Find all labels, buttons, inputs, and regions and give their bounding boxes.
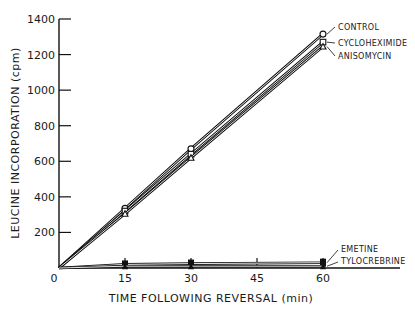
y-tick-label: 200: [34, 226, 55, 239]
x-tick-label: 60: [316, 272, 330, 285]
marker-circle: [320, 31, 326, 37]
legend: CONTROLCYCLOHEXIMIDEANISOMYCINEMETINETYL…: [327, 23, 407, 266]
x-axis-title: TIME FOLLOWING REVERSAL (min): [108, 292, 314, 305]
series-anisomycin: [59, 44, 326, 268]
legend-leader-line: [327, 27, 335, 34]
y-axis-title: LEUCINE INCORPORATION (cpm): [9, 47, 22, 239]
x-tick-label: 30: [184, 272, 198, 285]
legend-leader-line: [327, 250, 338, 263]
y-tick-label: 1400: [27, 13, 55, 26]
legend-label-control: CONTROL: [338, 23, 379, 32]
y-tick-label: 400: [34, 191, 55, 204]
legend-leader-line: [327, 262, 338, 266]
y-tick-label: 800: [34, 120, 55, 133]
legend-label-anisomycin: ANISOMYCIN: [338, 52, 391, 61]
x-tick-label: 45: [250, 272, 264, 285]
y-tick-label: 600: [34, 155, 55, 168]
chart: 020040060080010001200140015304560 CONTRO…: [0, 0, 415, 314]
legend-label-tylocrebrine: TYLOCREBRINE: [340, 257, 406, 266]
y-tick-label: 1200: [27, 49, 55, 62]
legend-leader-line: [327, 42, 335, 43]
x-tick-label: 15: [118, 272, 132, 285]
legend-leader-line: [327, 47, 335, 56]
series-group: [59, 31, 326, 269]
legend-label-cycloheximide: CYCLOHEXIMIDE: [338, 39, 407, 48]
y-tick-label: 1000: [27, 84, 55, 97]
legend-label-emetine: EMETINE: [341, 245, 378, 254]
y-tick-label: 0: [51, 272, 58, 285]
